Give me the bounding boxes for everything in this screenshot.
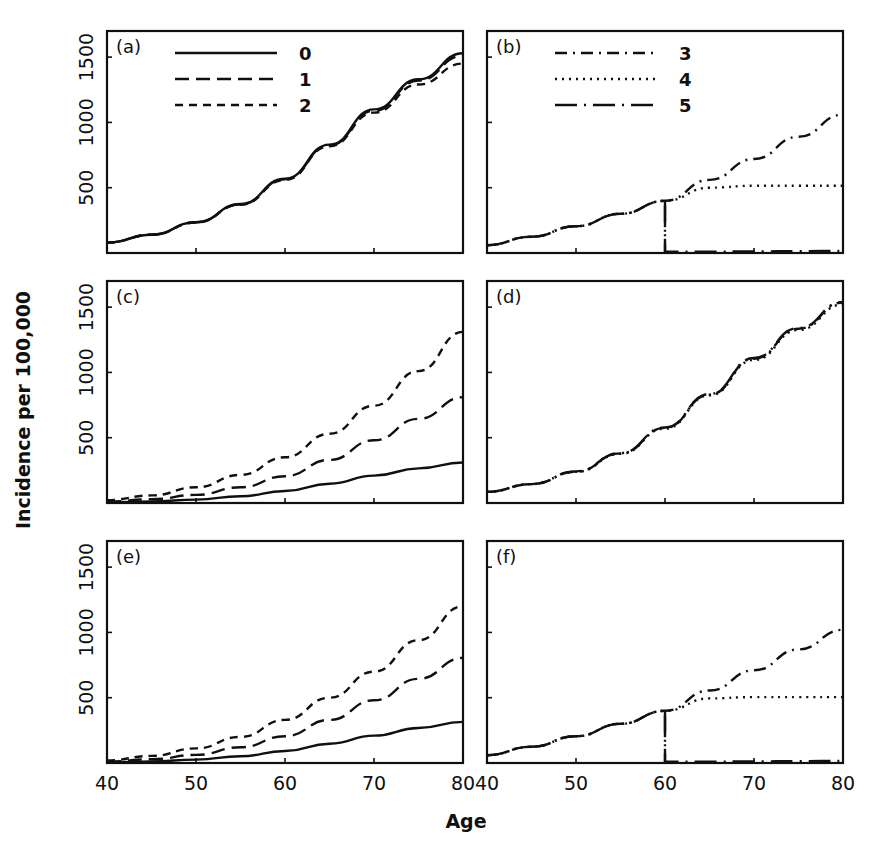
- x-tick-label: 70: [362, 772, 386, 794]
- x-tick-label: 80: [831, 772, 855, 794]
- y-tick-label: 1000: [75, 348, 97, 396]
- x-tick-label: 60: [653, 772, 677, 794]
- x-tick-label: 40: [95, 772, 119, 794]
- x-tick-label: 50: [184, 772, 208, 794]
- x-tick-label: 70: [742, 772, 766, 794]
- panel-frame: [107, 31, 463, 253]
- panel-tag: (f): [496, 546, 516, 567]
- x-axis-title: Age: [445, 810, 486, 832]
- panel-c: 50010001500(c): [75, 281, 463, 503]
- y-tick-label: 1500: [75, 283, 97, 331]
- y-tick-label: 1500: [75, 543, 97, 591]
- panel-tag: (e): [116, 546, 141, 567]
- legend-label-0: 0: [299, 43, 312, 64]
- panel-b: (b)345: [487, 31, 843, 253]
- panel-e: 500100015004050607080(e): [75, 541, 475, 794]
- incidence-by-age-figure: Incidence per 100,000 Age 50010001500(a)…: [0, 0, 874, 857]
- y-tick-label: 500: [75, 420, 97, 456]
- panel-tag: (d): [496, 286, 521, 307]
- y-tick-label: 1500: [75, 33, 97, 81]
- y-tick-label: 500: [75, 680, 97, 716]
- y-tick-label: 1000: [75, 608, 97, 656]
- y-axis-title: Incidence per 100,000: [12, 291, 34, 529]
- legend-label-2: 2: [299, 95, 312, 116]
- legend-label-5: 5: [679, 95, 692, 116]
- panel-frame: [487, 281, 843, 503]
- legend-label-4: 4: [679, 69, 692, 90]
- panel-tag: (b): [496, 36, 521, 57]
- x-tick-label: 40: [475, 772, 499, 794]
- panel-tag: (a): [116, 36, 141, 57]
- legend-label-1: 1: [299, 69, 312, 90]
- x-tick-label: 50: [564, 772, 588, 794]
- y-tick-label: 1000: [75, 98, 97, 146]
- legend-label-3: 3: [679, 43, 692, 64]
- panel-f: 4050607080(f): [475, 541, 855, 794]
- y-tick-label: 500: [75, 170, 97, 206]
- panel-a: 50010001500(a)012: [75, 31, 463, 253]
- panel-d: (d): [487, 281, 843, 503]
- x-tick-label: 60: [273, 772, 297, 794]
- x-tick-label: 80: [451, 772, 475, 794]
- panel-tag: (c): [116, 286, 140, 307]
